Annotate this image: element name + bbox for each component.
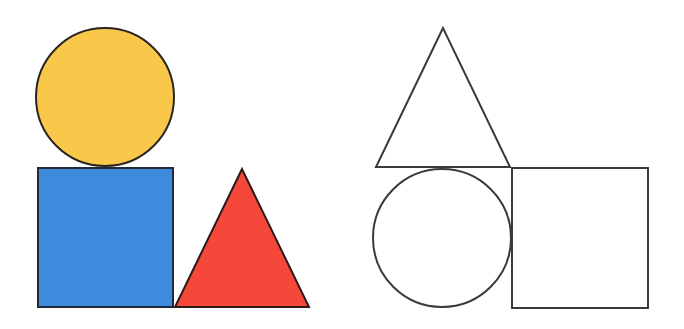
outline-square-shape [512,168,648,308]
yellow-circle-shape [36,28,174,166]
figure-canvas [0,0,684,329]
outline-triangle-shape [376,28,510,167]
colored-arrangement [36,28,309,307]
blue-square-shape [38,168,173,307]
red-triangle-shape [175,169,309,307]
outline-arrangement [373,28,648,308]
shapes-figure [0,0,684,329]
outline-circle-shape [373,169,511,307]
